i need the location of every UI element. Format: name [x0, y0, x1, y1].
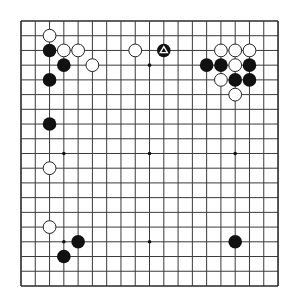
black-stone[interactable]	[43, 44, 57, 58]
black-stone-icon	[228, 235, 242, 249]
black-stone-icon	[43, 73, 57, 87]
black-stone[interactable]	[57, 250, 71, 264]
white-stone-icon	[243, 44, 256, 57]
white-stone-icon	[57, 44, 70, 57]
white-stone-icon	[72, 44, 85, 57]
go-board[interactable]	[0, 0, 296, 304]
black-stone-icon	[214, 58, 228, 72]
black-stone-icon	[228, 73, 242, 87]
white-stone[interactable]	[243, 44, 256, 57]
black-stone[interactable]	[243, 58, 257, 72]
white-stone-icon	[43, 29, 56, 42]
black-stone[interactable]	[228, 235, 242, 249]
star-point	[148, 63, 152, 67]
black-stone-icon	[243, 73, 257, 87]
white-stone[interactable]	[43, 29, 56, 42]
white-stone[interactable]	[43, 221, 56, 234]
white-stone[interactable]	[229, 88, 242, 101]
star-point	[148, 240, 152, 244]
white-stone[interactable]	[215, 44, 228, 57]
black-stone[interactable]	[200, 58, 214, 72]
white-stone-icon	[215, 44, 228, 57]
white-stone-icon	[43, 221, 56, 234]
white-stone-icon	[229, 59, 242, 72]
white-stone[interactable]	[215, 73, 228, 86]
white-stone[interactable]	[72, 44, 85, 57]
white-stone[interactable]	[57, 44, 70, 57]
black-stone-icon	[57, 250, 71, 264]
white-stone-icon	[229, 44, 242, 57]
black-stone-icon	[43, 44, 57, 58]
black-stone-icon	[200, 58, 214, 72]
star-point	[62, 240, 66, 244]
black-stone[interactable]	[157, 44, 171, 58]
white-stone-icon	[215, 73, 228, 86]
white-stone[interactable]	[43, 162, 56, 175]
black-stone-icon	[57, 58, 71, 72]
white-stone-icon	[43, 162, 56, 175]
black-stone[interactable]	[214, 58, 228, 72]
black-stone-icon	[243, 58, 257, 72]
black-stone[interactable]	[43, 117, 57, 131]
white-stone-icon	[229, 88, 242, 101]
black-stone[interactable]	[57, 58, 71, 72]
black-stone[interactable]	[71, 235, 85, 249]
white-stone[interactable]	[129, 44, 142, 57]
white-stone-icon	[86, 59, 99, 72]
white-stone-icon	[129, 44, 142, 57]
black-stone[interactable]	[243, 73, 257, 87]
star-point	[233, 152, 237, 156]
black-stone[interactable]	[43, 73, 57, 87]
star-point	[62, 152, 66, 156]
white-stone[interactable]	[229, 44, 242, 57]
white-stone[interactable]	[86, 59, 99, 72]
black-stone-icon	[71, 235, 85, 249]
black-stone-icon	[43, 117, 57, 131]
star-point	[148, 152, 152, 156]
white-stone[interactable]	[229, 59, 242, 72]
black-stone[interactable]	[228, 73, 242, 87]
